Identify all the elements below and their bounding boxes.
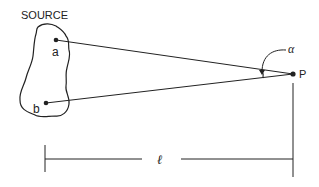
source-label: SOURCE <box>21 9 68 21</box>
point-p-dot <box>290 71 295 76</box>
angle-pointer-curve <box>262 50 286 72</box>
point-p-label: P <box>299 68 306 80</box>
distance-l-label: ℓ <box>157 152 163 167</box>
ray-a-to-p <box>56 40 293 74</box>
angle-alpha-label: α <box>288 42 295 56</box>
point-b-label: b <box>33 102 40 116</box>
ray-b-to-p <box>46 74 293 103</box>
angle-pointer-arrowhead <box>259 70 265 75</box>
source-geometry-diagram: SOURCE a b P α ℓ <box>0 0 319 187</box>
point-a-label: a <box>52 45 59 59</box>
